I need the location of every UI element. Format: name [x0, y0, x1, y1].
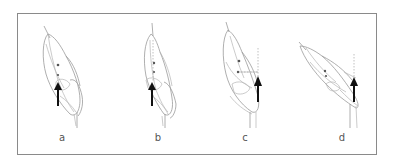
wing-outline-c: [223, 22, 259, 128]
wing-diagram: a b: [0, 0, 395, 164]
arrow-up-icon: [350, 77, 358, 102]
point-upper-b: [153, 62, 155, 64]
panel-label-b: b: [155, 132, 161, 143]
point-upper-c: [238, 60, 241, 63]
point-lower-b: [153, 71, 155, 73]
point-lower-c: [237, 71, 239, 73]
point-upper-d: [324, 70, 326, 72]
panel-a: a: [43, 26, 82, 143]
panel-b: b: [144, 23, 176, 143]
panel-c: c: [223, 22, 262, 143]
panel-d: d: [299, 42, 358, 143]
panel-label-a: a: [59, 132, 65, 143]
wing-outline-a: [43, 26, 82, 128]
point-upper-a: [57, 64, 60, 67]
arrow-up-icon: [254, 76, 262, 102]
wing-outline-b: [144, 23, 176, 128]
point-lower-d: [325, 75, 327, 77]
panel-label-c: c: [242, 132, 248, 143]
panel-label-d: d: [339, 132, 345, 143]
wing-outline-d: [299, 42, 358, 128]
point-lower-a: [57, 74, 59, 76]
